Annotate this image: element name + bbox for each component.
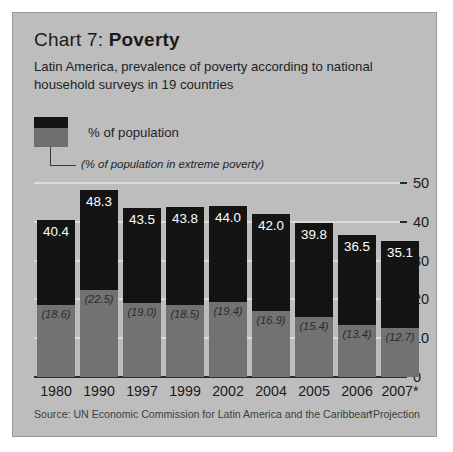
- gridline: [34, 182, 400, 184]
- bar-value-label-extreme-poverty: (18.6): [37, 308, 75, 320]
- chart-bar: 44.0(19.4): [209, 206, 247, 377]
- legend-label-extreme: (% of population in extreme poverty): [81, 158, 264, 170]
- x-axis-tick-label: 1980: [37, 383, 75, 399]
- chart-bar: 43.8(18.5): [166, 207, 204, 377]
- legend-swatch-extreme: [34, 128, 68, 147]
- bar-value-label-extreme-poverty: (19.0): [123, 306, 161, 318]
- legend-swatch-population: [34, 117, 68, 128]
- bar-value-label-population: 43.8: [166, 211, 204, 226]
- x-axis-tick-label: 1999: [166, 383, 204, 399]
- bar-value-label-extreme-poverty: (19.4): [209, 305, 247, 317]
- bar-value-label-extreme-poverty: (22.5): [80, 293, 118, 305]
- bar-value-label-extreme-poverty: (13.4): [338, 328, 376, 340]
- chart-bar: 40.4(18.6): [37, 220, 75, 377]
- page-title: Chart 7: Poverty: [34, 29, 180, 51]
- chart-subtitle: Latin America, prevalence of poverty acc…: [34, 58, 374, 94]
- x-axis-tick-label: 1990: [80, 383, 118, 399]
- x-axis-tick-label: 2004: [252, 383, 290, 399]
- chart-bar: 43.5(19.0): [123, 208, 161, 377]
- bar-value-label-extreme-poverty: (12.7): [381, 331, 419, 343]
- bar-value-label-population: 43.5: [123, 212, 161, 227]
- bar-value-label-population: 48.3: [80, 194, 118, 209]
- chart-legend: % of population (% of population in extr…: [34, 114, 404, 176]
- y-axis-tick-label: 50: [413, 175, 429, 191]
- y-axis-tick: [400, 182, 407, 184]
- legend-label-population: % of population: [88, 125, 179, 140]
- bar-value-label-population: 35.1: [381, 245, 419, 260]
- bar-value-label-population: 42.0: [252, 218, 290, 233]
- chart-bar: 48.3(22.5): [80, 190, 118, 377]
- chart-bar: 35.1(12.7): [381, 241, 419, 377]
- legend-swatch: [34, 117, 68, 147]
- bar-value-label-population: 40.4: [37, 224, 75, 239]
- chart-bar: 42.0(16.9): [252, 214, 290, 377]
- chart-figure-panel: Chart 7: Poverty Latin America, prevalen…: [12, 12, 437, 437]
- x-axis-tick-label: 2005: [295, 383, 333, 399]
- x-axis-tick-label: 2007*: [381, 383, 419, 399]
- legend-leader-line-vertical: [50, 147, 51, 166]
- title-emphasis: Poverty: [109, 29, 180, 50]
- x-axis-tick-label: 2006: [338, 383, 376, 399]
- chart-projection-note: *Projection: [369, 408, 420, 420]
- bar-value-label-extreme-poverty: (18.5): [166, 308, 204, 320]
- bar-value-label-population: 39.8: [295, 227, 333, 242]
- bar-value-label-extreme-poverty: (15.4): [295, 320, 333, 332]
- y-axis-tick-label: 40: [413, 214, 429, 230]
- x-axis-tick-label: 2002: [209, 383, 247, 399]
- chart-source-note: Source: UN Economic Commission for Latin…: [34, 408, 372, 420]
- chart-bar: 36.5(13.4): [338, 235, 376, 377]
- bar-value-label-population: 44.0: [209, 210, 247, 225]
- chart-bar: 39.8(15.4): [295, 223, 333, 377]
- x-axis-tick-label: 1997: [123, 383, 161, 399]
- y-axis-tick: [400, 221, 407, 223]
- chart-plot-area: 0102030405040.4(18.6)198048.3(22.5)19904…: [34, 183, 417, 377]
- legend-leader-line-horizontal: [50, 165, 76, 166]
- title-prefix: Chart 7:: [34, 29, 109, 50]
- bar-value-label-population: 36.5: [338, 239, 376, 254]
- bar-value-label-extreme-poverty: (16.9): [252, 314, 290, 326]
